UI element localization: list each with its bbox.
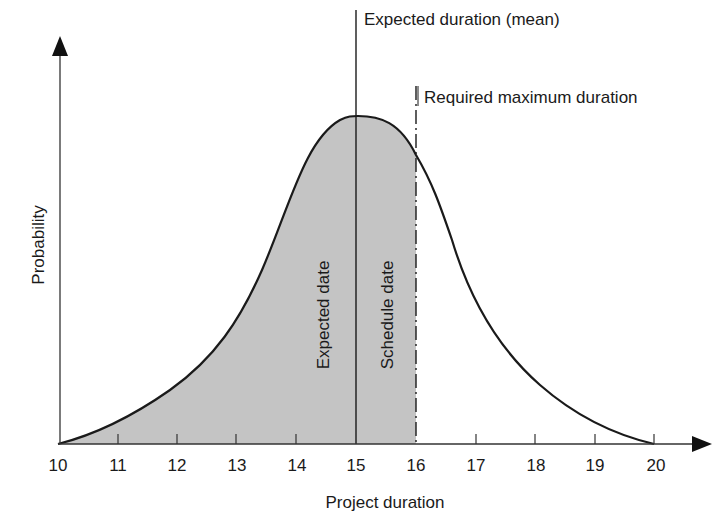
x-tick-label: 19 <box>586 456 605 475</box>
x-axis-arrow-icon <box>692 436 712 452</box>
x-tick-label: 15 <box>347 456 366 475</box>
x-tick-label: 10 <box>49 456 68 475</box>
schedule-date-label: Schedule date <box>378 261 397 370</box>
x-tick-label: 12 <box>168 456 187 475</box>
x-tick-label: 20 <box>647 456 666 475</box>
required-max-annotation-label: Required maximum duration <box>424 88 638 107</box>
x-tick-label: 11 <box>109 456 127 475</box>
x-tick-label: 14 <box>288 456 307 475</box>
x-tick-labels: 10 11 12 13 14 15 16 17 18 19 20 <box>49 456 666 475</box>
expected-date-label: Expected date <box>314 261 333 370</box>
probability-distribution-chart: 10 11 12 13 14 15 16 17 18 19 20 Project… <box>0 0 723 530</box>
x-tick-label: 13 <box>228 456 247 475</box>
x-tick-label: 18 <box>527 456 546 475</box>
y-axis-arrow-icon <box>52 36 68 56</box>
y-axis-title: Probability <box>29 205 48 285</box>
x-tick-label: 16 <box>407 456 426 475</box>
x-tick-label: 17 <box>467 456 486 475</box>
shaded-area <box>58 116 416 444</box>
mean-annotation-label: Expected duration (mean) <box>364 10 560 29</box>
x-axis-title: Project duration <box>325 493 444 512</box>
